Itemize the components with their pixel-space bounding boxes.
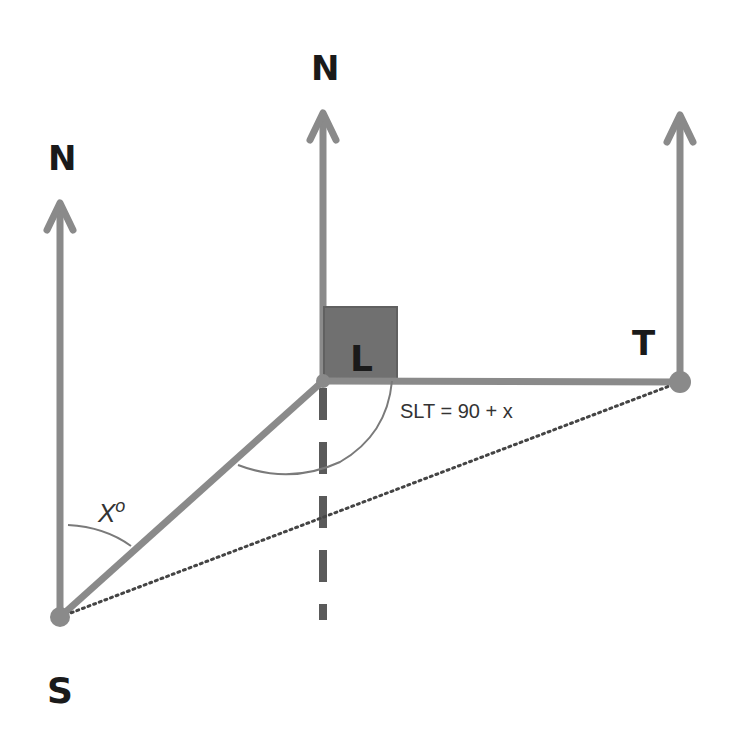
label-angle-x: Xo: [97, 496, 125, 528]
label-north-l: N: [311, 48, 339, 88]
north-arrow-s: [47, 203, 73, 617]
bearing-diagram: N N L T S Xo SLT = 90 + x: [0, 0, 729, 739]
label-north-s: N: [48, 138, 76, 178]
label-point-l: L: [350, 338, 373, 379]
angle-arc-slt: [238, 381, 392, 474]
point-t-dot: [669, 371, 691, 393]
label-angle-x-main: X: [97, 498, 117, 528]
north-arrow-t: [667, 115, 693, 382]
label-point-t: T: [632, 323, 656, 363]
point-l-dot: [316, 374, 330, 388]
point-s-dot: [50, 607, 70, 627]
label-angle-x-degree: o: [115, 496, 125, 516]
label-angle-slt: SLT = 90 + x: [400, 400, 513, 422]
label-point-s: S: [47, 670, 73, 711]
angle-arc-x: [68, 525, 131, 546]
line-st-dotted: [60, 382, 680, 617]
line-lt: [323, 381, 680, 382]
